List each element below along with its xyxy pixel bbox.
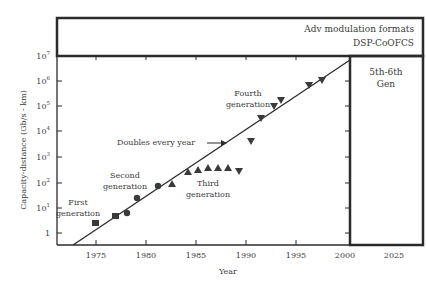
annotations: First generation Second generation Third… (56, 89, 270, 218)
svg-text:1: 1 (45, 229, 50, 238)
svg-text:102: 102 (36, 177, 50, 188)
marker-square (92, 220, 99, 226)
marker-circle (134, 195, 140, 201)
y-ticks (57, 81, 350, 233)
svg-text:104: 104 (36, 125, 50, 136)
arrow-head-icon (221, 140, 227, 146)
top-box-line-2: DSP-CoOFCS (353, 38, 414, 48)
svg-text:1990: 1990 (236, 251, 256, 260)
y-tick-labels: 107 106 105 104 103 102 101 1 (36, 50, 50, 238)
marker-triangle-down (277, 97, 285, 104)
annotation-first-gen-2: generation (56, 209, 100, 218)
x-ticks (96, 56, 296, 245)
chart-canvas: Adv modulation formats DSP-CoOFCS 5th-6t… (0, 0, 426, 287)
svg-text:1975: 1975 (86, 251, 106, 260)
annotation-fourth-gen-2: generation (226, 100, 270, 109)
annotation-second-gen-2: generation (103, 182, 147, 191)
svg-text:1995: 1995 (286, 251, 306, 260)
annotation-second-gen-1: Second (110, 171, 140, 180)
annotation-third-gen-2: generation (186, 190, 230, 199)
marker-circle (124, 210, 130, 216)
svg-text:106: 106 (36, 75, 50, 86)
marker-triangle-up (194, 166, 202, 173)
marker-triangle-up (214, 164, 222, 171)
x-axis-label: Year (218, 267, 237, 276)
right-box-line-2: Gen (377, 79, 396, 89)
annotation-third-gen-1: Third (197, 179, 219, 188)
svg-text:107: 107 (36, 50, 50, 61)
top-box-line-1: Adv modulation formats (303, 24, 414, 34)
annotation-doubles: Doubles every year (117, 138, 195, 147)
marker-circle (155, 183, 161, 189)
marker-triangle-up (204, 164, 212, 171)
svg-text:1985: 1985 (186, 251, 206, 260)
marker-triangle-down (235, 168, 243, 175)
marker-square (112, 213, 119, 219)
svg-text:101: 101 (36, 202, 50, 213)
marker-triangle-up (184, 168, 192, 175)
marker-triangle-up (224, 164, 232, 171)
x-tick-labels: 1975 1980 1985 1990 1995 2000 2025 (86, 251, 404, 260)
marker-triangle-down (247, 138, 255, 145)
svg-text:2025: 2025 (384, 251, 404, 260)
y-axis-label: Capacity-distance (Gb/s - km) (19, 90, 28, 210)
svg-text:105: 105 (36, 100, 50, 111)
svg-text:2000: 2000 (335, 251, 355, 260)
annotation-fourth-gen-1: Fourth (234, 89, 261, 98)
svg-text:1980: 1980 (136, 251, 156, 260)
right-box-line-1: 5th-6th (369, 67, 403, 77)
annotation-first-gen-1: First (68, 198, 88, 207)
svg-text:103: 103 (36, 151, 50, 162)
